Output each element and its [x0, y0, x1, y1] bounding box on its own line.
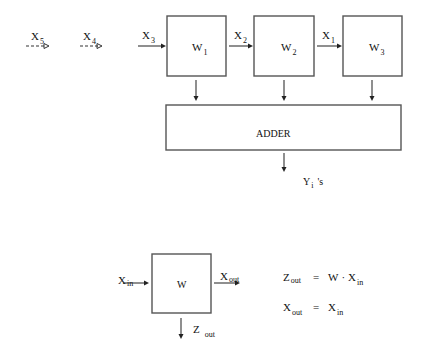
input-x4: X4 — [80, 30, 102, 49]
cell-w2: W2 — [254, 16, 314, 76]
arrow-w1-to-adder — [194, 80, 199, 101]
svg-text:X3: X3 — [142, 29, 155, 45]
svg-text:Xout: Xout — [220, 270, 240, 284]
svg-text:=: = — [313, 301, 319, 313]
arrow-w3-to-adder — [370, 80, 375, 101]
svg-text:X4: X4 — [83, 30, 96, 46]
svg-text:Zout: Zout — [193, 323, 216, 339]
equation-z-out: Zout = W·Xin — [283, 271, 363, 287]
svg-text:=: = — [313, 271, 319, 283]
cell-detail-output-right: Xout — [214, 270, 240, 286]
arrow-w2-to-adder — [282, 80, 287, 101]
svg-text:W·Xin: W·Xin — [328, 271, 363, 287]
svg-text:Xout: Xout — [283, 301, 303, 317]
input-x2: X2 — [229, 29, 253, 49]
svg-text:X2: X2 — [234, 29, 247, 45]
equation-x-out: Xout = Xin — [283, 301, 343, 317]
input-x1: X1 — [317, 29, 342, 49]
svg-text:X1: X1 — [322, 29, 335, 45]
cell-w3: W3 — [343, 16, 402, 76]
cell-detail-input: Xin — [118, 274, 149, 288]
svg-text:Xin: Xin — [328, 301, 343, 317]
svg-text:Zout: Zout — [283, 271, 302, 285]
input-x3: X3 — [138, 29, 166, 49]
svg-text:X5: X5 — [31, 30, 44, 46]
input-x5: X5 — [26, 30, 49, 49]
adder-output-arrow — [282, 153, 287, 172]
svg-text:Xin: Xin — [118, 274, 133, 288]
cell-w1: W1 — [167, 16, 226, 76]
output-yi-label: Yi's — [303, 176, 323, 190]
adder-block: ADDER — [166, 105, 401, 150]
cell-detail-output-down: Zout — [179, 318, 216, 339]
cell-detail-box: W — [152, 254, 211, 313]
systolic-diagram: X5 X4 X3 W1 X2 W2 X1 W3 — [0, 0, 428, 359]
svg-text:W: W — [177, 279, 187, 290]
adder-label: ADDER — [256, 128, 291, 139]
